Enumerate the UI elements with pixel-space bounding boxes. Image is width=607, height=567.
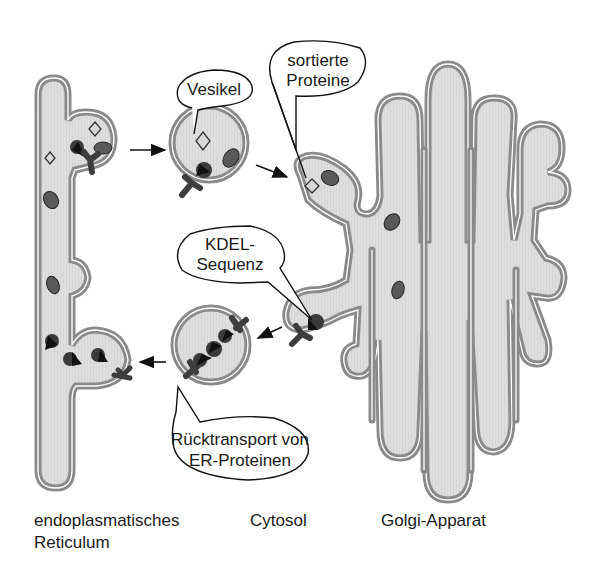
callout-kdel-line2: Sequenz <box>196 255 263 274</box>
callout-vesikel-text: Vesikel <box>187 80 241 99</box>
callout-sortierte-line1: sortierte <box>287 51 348 70</box>
transport-diagram: Vesikel sortierte Proteine KDEL- Sequenz… <box>0 0 607 567</box>
region-label-er-line1: endoplasmatisches <box>34 511 180 530</box>
callout-ruecktransport-line2: ER-Proteinen <box>189 451 291 470</box>
region-label-er-line2: Reticulum <box>34 533 110 552</box>
vesicle-anterograde <box>172 106 246 195</box>
vesicle-retrograde <box>174 308 248 382</box>
callout-kdel-line1: KDEL- <box>205 235 255 254</box>
golgi-apparatus <box>286 64 568 500</box>
callout-ruecktransport-line1: Rücktransport von <box>171 430 309 449</box>
region-label-cytosol: Cytosol <box>250 511 307 530</box>
callout-sortierte-line2: Proteine <box>286 71 349 90</box>
region-label-golgi: Golgi-Apparat <box>381 511 486 530</box>
arrow-right-icon <box>256 165 287 177</box>
arrow-left-icon <box>258 327 282 338</box>
callout-ruecktransport: Rücktransport von ER-Proteinen <box>171 387 309 480</box>
